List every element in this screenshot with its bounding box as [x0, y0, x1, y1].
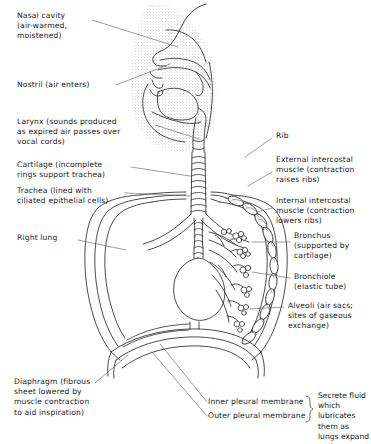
stem-cartilage-rings	[194, 223, 203, 255]
pleural-membranes	[123, 324, 189, 347]
label-diaphragm: Diaphragm (fibrous sheet lowered by musc…	[14, 377, 90, 418]
alveoli-clusters	[221, 229, 251, 333]
alveoli-cluster	[237, 247, 250, 258]
leader-rib	[245, 138, 272, 157]
label-pleural-note: Secrete fluid which lubricates them as l…	[318, 391, 371, 444]
chest-wall-left-inner	[95, 198, 146, 346]
diaphragm-dome-lower	[122, 346, 250, 368]
pleural-brace	[306, 396, 313, 422]
diaphragm-attachment-left-inner	[114, 360, 116, 378]
leader-inner-pleural	[160, 344, 207, 402]
diaphragm-attachment-right-inner	[256, 360, 258, 378]
diaphragm-attachment-left	[108, 352, 111, 376]
label-nasal-cavity: Nasal cavity (air-warmed, moistened)	[17, 11, 67, 42]
label-nostril: Nostril (air enters)	[17, 80, 90, 90]
alveoli-cluster	[240, 265, 251, 277]
thorax-apex-right	[211, 192, 232, 195]
label-trachea: Trachea (lined with ciliated epithelial …	[17, 186, 108, 206]
label-bronchiole: Bronchiole (elastic tube)	[294, 272, 346, 292]
label-cartilage: Cartilage (incomplete rings support trac…	[17, 160, 105, 180]
label-alveoli: Alveoli (air sacs; sites of gaseous exch…	[288, 301, 353, 332]
leader-cartilage	[131, 167, 190, 176]
cartilage-rings	[191, 157, 206, 213]
diaphragm-attachment-right	[261, 352, 264, 376]
alveoli-cluster	[233, 231, 247, 242]
bronchiole-branch-6	[216, 290, 229, 322]
label-larynx: Larynx (sounds produced as expired air p…	[17, 117, 120, 148]
diaphragm-dome-upper	[111, 329, 261, 352]
alveoli-cluster	[238, 305, 248, 316]
chest-wall-left-outer	[85, 195, 140, 360]
label-rib: Rib	[276, 131, 289, 141]
lung-apex-right	[211, 199, 220, 202]
respiratory-system-figure: Nasal cavity (air-warmed, moistened) Nos…	[0, 0, 371, 444]
chest-wall-right-inner	[226, 198, 277, 346]
trachea	[191, 152, 206, 214]
head-sagittal-section	[125, 0, 225, 160]
label-bronchus: Bronchus (supported by cartilage)	[294, 231, 349, 262]
label-outer-pleural-membrane: Outer pleural membrane	[208, 411, 306, 421]
trachea-right-wall	[205, 152, 206, 214]
alveoli-cluster	[234, 321, 244, 332]
leader-external-intercostal	[248, 172, 272, 186]
label-right-lung: Right lung	[17, 233, 58, 243]
thorax-apex-right-inner	[211, 195, 226, 198]
bronchial-tree	[209, 229, 252, 333]
label-internal-intercostal: Internal intercostal muscle (contraction…	[276, 196, 355, 227]
left-lung-outline	[105, 202, 152, 338]
left-main-bronchus-lower	[148, 220, 196, 250]
label-external-intercostal: External intercostal muscle (contraction…	[276, 155, 355, 186]
trachea-left-wall	[191, 152, 192, 214]
alveoli-cluster	[241, 286, 252, 297]
left-main-bronchus	[143, 214, 191, 244]
leader-diaphragm	[95, 355, 128, 383]
lung-apex-left	[152, 199, 186, 202]
label-inner-pleural-membrane: Inner pleural membrane	[208, 397, 304, 407]
leader-outer-pleural	[152, 352, 207, 416]
